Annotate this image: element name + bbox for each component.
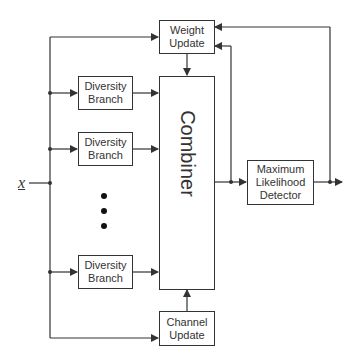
block-label: Branch: [88, 272, 123, 285]
block-label: Branch: [88, 149, 123, 162]
block-label: Branch: [88, 93, 123, 106]
block-label: Diversity: [84, 136, 126, 149]
block-label: Update: [169, 329, 204, 342]
block-label: Detector: [260, 189, 302, 202]
diversity-branch-1-block: Diversity Branch: [78, 76, 133, 110]
ml-detector-block: Maximum Likelihood Detector: [247, 160, 314, 205]
ellipsis-dots: [101, 193, 107, 229]
block-label: Weight: [170, 24, 204, 37]
diversity-branch-3-block: Diversity Branch: [78, 255, 133, 289]
channel-update-block: Channel Update: [159, 311, 215, 346]
block-label: Update: [169, 37, 204, 50]
block-label: Maximum: [257, 163, 305, 176]
input-signal-label: x: [18, 174, 25, 192]
block-label: Likelihood: [256, 176, 306, 189]
block-label: Diversity: [84, 259, 126, 272]
block-label: Channel: [167, 316, 208, 329]
weight-update-block: Weight Update: [159, 20, 215, 54]
block-label: Diversity: [84, 80, 126, 93]
diversity-branch-2-block: Diversity Branch: [78, 132, 133, 166]
combiner-label: Combiner: [176, 107, 199, 201]
